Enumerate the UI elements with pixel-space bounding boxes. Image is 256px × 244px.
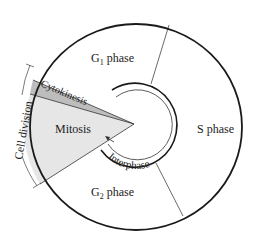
g1-s-divider [151,25,169,84]
bracket-top-tick [26,64,34,67]
s-phase-label: S phase [197,122,234,136]
bracket-bottom-tick [33,183,41,188]
interphase-label: Interphase [106,150,151,171]
mitosis-label: Mitosis [55,122,91,136]
cell-cycle-diagram: G1 phase S phase G2 phase Mitosis Cytoki… [0,0,256,244]
g2-phase-label: G2 phase [91,185,134,201]
cell-division-bracket-top [22,65,30,95]
s-g2-divider [156,163,183,216]
g1-phase-label: G1 phase [91,51,134,67]
